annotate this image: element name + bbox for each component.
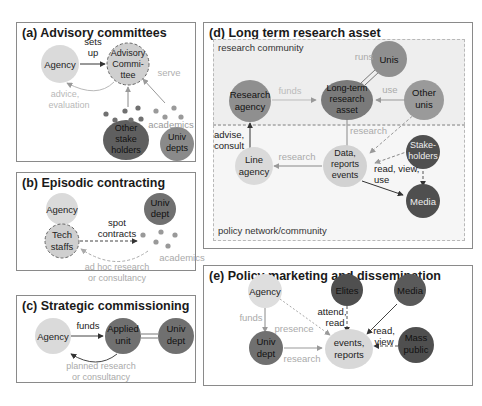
node-unis[interactable]: Unis [371, 41, 407, 77]
svg-text:events,: events, [334, 337, 365, 348]
node-media[interactable]: Media [406, 184, 440, 218]
svg-text:agency: agency [239, 166, 270, 177]
node-mass-public[interactable]: Mass public [398, 327, 434, 363]
svg-text:Univ: Univ [150, 197, 169, 208]
arrow-stakeholders-data [375, 151, 409, 163]
svg-text:Univ: Univ [168, 132, 187, 142]
node-advisory-committee[interactable]: Advisory Commi- ttee [107, 43, 149, 85]
node-research-agency[interactable]: Research agency [229, 80, 271, 122]
label-spot: spot [108, 217, 126, 228]
node-long-term-research-asset[interactable]: Long-term research asset [321, 80, 373, 120]
svg-text:holders: holders [111, 145, 141, 155]
svg-text:Advisory: Advisory [111, 48, 146, 58]
arrow-academics-serve [143, 79, 165, 103]
label-attend: attend, [317, 306, 346, 317]
label-advise: advise, [214, 129, 244, 140]
node-agency[interactable]: Agency [46, 193, 78, 225]
label-sets: sets [84, 36, 102, 47]
svg-text:Media: Media [410, 196, 437, 207]
svg-text:Applied: Applied [107, 323, 139, 334]
svg-text:dept: dept [257, 348, 276, 359]
label-funds: funds [278, 85, 301, 96]
label-research-left: research [279, 151, 316, 162]
node-agency[interactable]: Agency [35, 318, 71, 354]
policy-marketing-diagram: Agency Elites Media Univ dept events, re… [204, 266, 474, 387]
svg-text:Commi-: Commi- [112, 59, 144, 69]
panel-strategic-commissioning: (c) Strategic commissioning Agency Appli… [16, 295, 196, 383]
node-agency[interactable]: Agency [248, 274, 282, 308]
node-univ-depts[interactable]: Univ depts [160, 127, 194, 161]
node-elites[interactable]: Elites [331, 274, 363, 306]
node-univ-dept[interactable]: Univ dept [144, 193, 176, 225]
node-applied-unit[interactable]: Applied unit [105, 318, 141, 354]
label-up: up [88, 47, 99, 58]
svg-text:Research: Research [230, 89, 271, 100]
svg-text:Elites: Elites [335, 285, 358, 296]
label-funds: funds [239, 312, 262, 323]
label-consultancy: or consultancy [88, 273, 147, 283]
label-consultancy: or consultancy [72, 372, 131, 382]
long-term-diagram: Research agency Long-term research asset… [204, 23, 474, 250]
node-data-reports-events[interactable]: Data, reports events [323, 145, 367, 187]
svg-text:Univ: Univ [166, 323, 185, 334]
svg-text:Agency: Agency [46, 204, 78, 215]
label-use-2: use [374, 174, 389, 185]
node-univ-dept[interactable]: Univ dept [158, 318, 194, 354]
svg-text:asset: asset [336, 105, 358, 115]
label-funds: funds [76, 320, 99, 331]
link-applied-univ [141, 334, 158, 338]
label-contracts: contracts [98, 228, 137, 239]
svg-text:Media: Media [397, 285, 424, 296]
node-events-reports[interactable]: events, reports [325, 329, 373, 369]
svg-text:depts: depts [166, 143, 189, 153]
svg-text:Long-term: Long-term [326, 83, 367, 93]
node-other-stakeholders[interactable]: Other stake holders [103, 120, 149, 160]
label-adhoc: ad hoc research [85, 262, 150, 272]
svg-text:reports: reports [334, 349, 364, 360]
svg-text:events: events [332, 170, 359, 180]
svg-text:ttee: ttee [120, 70, 135, 80]
svg-text:agency: agency [235, 101, 266, 112]
node-univ-dept[interactable]: Univ dept [249, 331, 283, 365]
node-media[interactable]: Media [394, 274, 426, 306]
label-serve: serve [157, 67, 180, 78]
svg-text:Other: Other [412, 87, 436, 98]
label-planned: planned research [66, 361, 136, 371]
label-research: research [284, 353, 321, 364]
svg-text:Agency: Agency [37, 331, 69, 342]
svg-text:holders: holders [408, 151, 438, 161]
label-read-2: read, [373, 325, 395, 336]
strategic-diagram: Agency Applied unit Univ dept funds plan… [17, 296, 197, 384]
svg-text:Agency: Agency [44, 59, 76, 70]
svg-text:Mass: Mass [405, 332, 428, 343]
svg-text:Unis: Unis [379, 54, 398, 65]
svg-text:research: research [329, 94, 364, 104]
label-research-down: research [350, 125, 387, 136]
label-advice: advice, [51, 89, 80, 99]
academic-dots [153, 105, 183, 119]
svg-text:public: public [404, 344, 429, 355]
label-use: use [382, 84, 397, 95]
node-tech-staffs[interactable]: Tech staffs [45, 224, 79, 258]
panel-advisory-committees: (a) Advisory committees Agency Advisory … [16, 22, 196, 162]
label-academics: academics [159, 252, 205, 263]
label-runs: runs [355, 51, 374, 62]
stakeholder-dots [103, 105, 143, 122]
label-view: view [374, 336, 393, 347]
episodic-diagram: Agency Tech staffs Univ dept spot contra… [17, 173, 197, 272]
node-other-unis[interactable]: Other unis [404, 80, 444, 120]
node-agency[interactable]: Agency [41, 45, 79, 83]
svg-text:Agency: Agency [249, 286, 281, 297]
panel-long-term-research-asset: (d) Long term research asset research co… [203, 22, 473, 249]
svg-text:unis: unis [415, 99, 433, 110]
label-read-view: read, view, [374, 163, 419, 174]
arrow-adhoc-research [81, 249, 148, 262]
node-line-agency[interactable]: Line agency [235, 147, 273, 185]
label-academics: academics [148, 119, 194, 130]
panel-policy-marketing-dissemination: (e) Policy marketing and dissemination A… [203, 265, 473, 386]
svg-text:reports: reports [331, 159, 360, 169]
svg-text:dept: dept [167, 335, 186, 346]
label-consult: consult [214, 140, 244, 151]
svg-text:Univ: Univ [256, 336, 275, 347]
svg-text:Other: Other [115, 123, 138, 133]
